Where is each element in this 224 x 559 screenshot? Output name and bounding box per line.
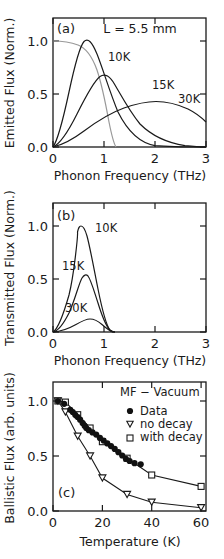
panel-b-label-10k: 10K	[95, 221, 118, 235]
panel-c-xtick-20: 20	[94, 515, 111, 530]
legend-marker-no-decay	[127, 421, 133, 427]
panel-c-xlabel: Temperature (K)	[78, 534, 180, 549]
panel-b-xtick-2: 2	[151, 336, 159, 351]
curve-10k	[53, 226, 115, 332]
panel-a-xlabel: Phonon Frequency (THz)	[54, 168, 206, 183]
panel-b-curves	[53, 226, 115, 332]
panel-c-svg: MF − Vacuum Data no decay with decay (c)…	[0, 370, 224, 559]
panel-c-ylabel: Ballistic Flux (arb. units)	[2, 372, 17, 524]
panel-b-ytick-2: 1.0	[27, 219, 48, 234]
panel-c-xtick-0: 0	[49, 515, 57, 530]
panel-a-ytick-0: 0.0	[27, 140, 48, 155]
legend-label-with-decay: with decay	[140, 430, 203, 444]
panel-a-xtick-2: 2	[151, 151, 159, 166]
panel-a-label-30k: 30K	[178, 92, 201, 106]
panel-a-ylabel: Emitted Flux (Norm.)	[2, 18, 17, 149]
panel-b-svg: (b) 10K 15K 30K 0 1 2 3 0.0 0.5 1.0 Phon…	[0, 185, 224, 375]
panel-b-xtick-1: 1	[100, 336, 108, 351]
panel-a-ytick-1: 0.5	[27, 87, 48, 102]
legend-label-no-decay: no decay	[140, 417, 193, 431]
panel-a-label-10k: 10K	[108, 50, 131, 64]
panel-b-ylabel: Transmitted Flux (Norm.)	[2, 190, 17, 347]
panel-b-ytick-1: 0.5	[27, 272, 48, 287]
panel-b-label-30k: 30K	[65, 301, 88, 315]
panel-a-svg: (a) L = 5.5 mm 10K 15K 30K 0 1 2 3 0.0 0…	[0, 0, 224, 190]
panel-b-xtick-0: 0	[49, 336, 57, 351]
panel-c-tag: (c)	[58, 485, 75, 500]
panel-b-ytick-0: 0.0	[27, 325, 48, 340]
panel-c-ytick-1: 0.5	[27, 449, 48, 464]
panel-c-xtick-60: 60	[193, 515, 210, 530]
panel-a-annotation: L = 5.5 mm	[103, 21, 177, 36]
panel-c-xtick-40: 40	[143, 515, 160, 530]
panel-c-title: MF − Vacuum	[120, 385, 200, 399]
figure-panel-stack: (a) L = 5.5 mm 10K 15K 30K 0 1 2 3 0.0 0…	[0, 0, 224, 559]
panel-c-ytick-2: 1.0	[27, 394, 48, 409]
panel-c-legend: Data no decay with decay	[127, 404, 203, 444]
panel-a-xtick-1: 1	[100, 151, 108, 166]
panel-c-ballistic-flux: MF − Vacuum Data no decay with decay (c)…	[0, 370, 224, 559]
panel-a-axes	[53, 18, 206, 147]
panel-b-xtick-3: 3	[202, 336, 210, 351]
panel-a-xtick-3: 3	[202, 151, 210, 166]
panel-a-tag: (a)	[57, 21, 75, 36]
panel-b-label-15k: 15K	[62, 259, 85, 273]
panel-a-xtick-0: 0	[49, 151, 57, 166]
panel-b-transmitted-flux: (b) 10K 15K 30K 0 1 2 3 0.0 0.5 1.0 Phon…	[0, 185, 224, 375]
legend-marker-data	[127, 408, 133, 414]
panel-c-ytick-0: 0.0	[27, 504, 48, 519]
panel-a-label-15k: 15K	[152, 78, 175, 92]
legend-marker-with-decay	[127, 435, 133, 441]
panel-b-xlabel: Phonon Frequency (THz)	[54, 353, 206, 368]
panel-b-tag: (b)	[57, 208, 75, 223]
legend-label-data: Data	[140, 404, 167, 418]
panel-a-emitted-flux: (a) L = 5.5 mm 10K 15K 30K 0 1 2 3 0.0 0…	[0, 0, 224, 190]
panel-a-ytick-2: 1.0	[27, 34, 48, 49]
